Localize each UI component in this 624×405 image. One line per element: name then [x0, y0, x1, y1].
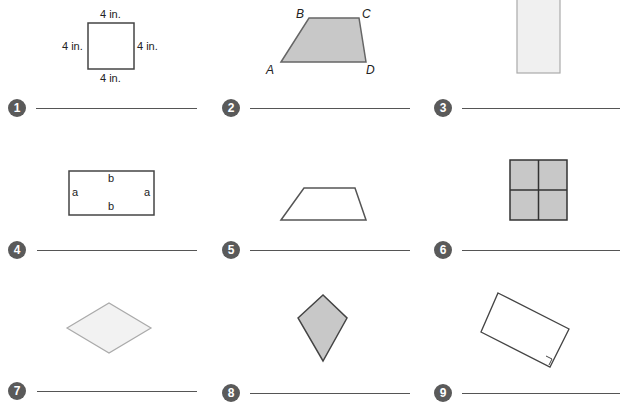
tall-rectangle-icon — [517, 0, 560, 73]
shapes-canvas — [0, 0, 624, 405]
answer-line[interactable] — [36, 108, 197, 109]
square-icon — [88, 23, 134, 69]
side-label-bottom: 4 in. — [100, 72, 121, 84]
trapezoid-icon — [281, 18, 366, 62]
problem-number-badge: 8 — [222, 384, 240, 402]
problem-number-badge: 5 — [222, 241, 240, 259]
vertex-label-a: A — [266, 63, 274, 77]
problem-number-badge: 6 — [434, 241, 452, 259]
problem-number-badge: 3 — [434, 99, 452, 117]
answer-line[interactable] — [250, 250, 410, 251]
side-label-a-left: a — [72, 186, 78, 198]
side-label-top: 4 in. — [100, 8, 121, 20]
vertex-label-c: C — [362, 7, 371, 21]
problem-number-badge: 1 — [8, 99, 26, 117]
problem-number-badge: 7 — [8, 382, 26, 400]
problem-number-badge: 4 — [8, 241, 26, 259]
answer-line[interactable] — [37, 250, 197, 251]
answer-line[interactable] — [462, 108, 620, 109]
side-label-a-right: a — [144, 186, 150, 198]
rhombus-icon — [67, 303, 151, 353]
answer-line[interactable] — [250, 393, 410, 394]
kite-icon — [298, 295, 347, 361]
trapezoid-outline-icon — [281, 188, 366, 220]
rotated-rectangle-icon — [481, 293, 569, 367]
problem-number-badge: 2 — [222, 99, 240, 117]
vertex-label-d: D — [366, 63, 375, 77]
side-label-left: 4 in. — [62, 40, 83, 52]
vertex-label-b: B — [296, 7, 304, 21]
answer-line[interactable] — [37, 391, 197, 392]
answer-line[interactable] — [250, 108, 410, 109]
side-label-right: 4 in. — [137, 40, 158, 52]
grid-square-icon — [510, 160, 567, 220]
answer-line[interactable] — [462, 393, 620, 394]
answer-line[interactable] — [462, 250, 620, 251]
side-label-b-top: b — [108, 172, 114, 184]
side-label-b-bottom: b — [108, 200, 114, 212]
problem-number-badge: 9 — [434, 384, 452, 402]
